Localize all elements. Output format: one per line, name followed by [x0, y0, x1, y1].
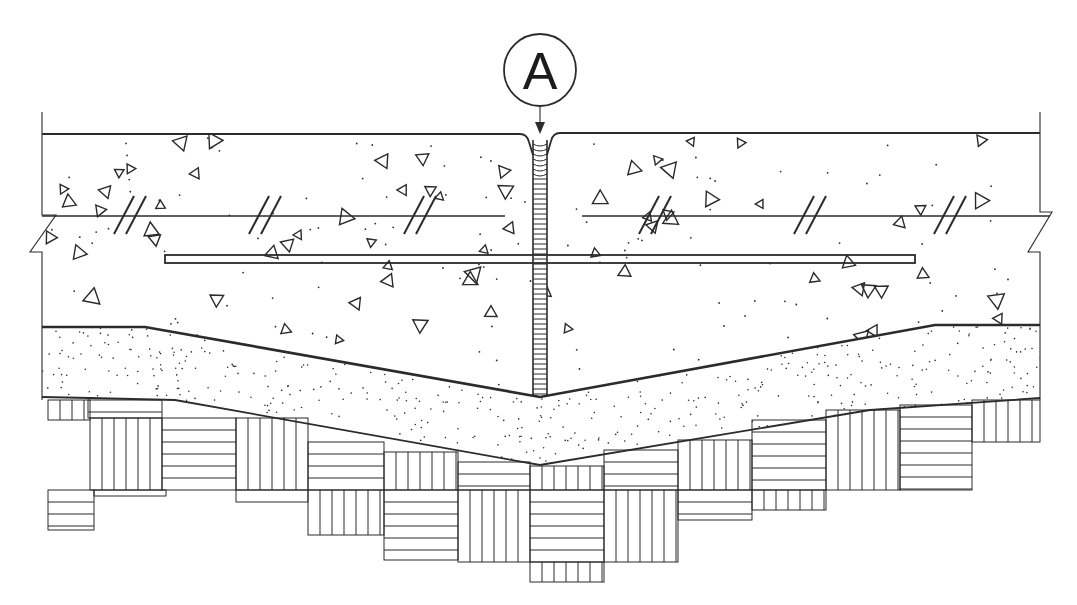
leader-arrow-icon: [535, 122, 545, 134]
subgrade-soil-hatch: [48, 400, 1040, 582]
left-break-line: [30, 112, 56, 400]
right-break-line: [1028, 112, 1052, 400]
upper-rebar: [42, 196, 1050, 234]
joint-section-drawing: A: [0, 0, 1077, 605]
sealed-joint: [533, 140, 547, 397]
callout-a: A: [504, 34, 576, 134]
callout-label: A: [523, 42, 558, 100]
